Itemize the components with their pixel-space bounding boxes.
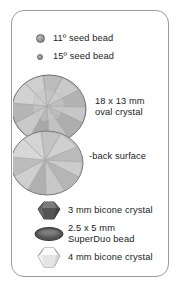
legend-item-label: 3 mm bicone crystal <box>68 205 153 216</box>
legend-item-superduo-bead: 2.5 x 5 mm SuperDuo bead <box>30 222 134 246</box>
legend-item-seed-bead-15: 15º seed bead <box>27 51 114 62</box>
legend-item-label: 11º seed bead <box>53 33 113 44</box>
superduo-lens-bead-icon <box>30 222 68 246</box>
legend-item-label: 18 x 13 mm oval crystal <box>95 96 145 118</box>
legend-item-label: -back surface <box>89 151 146 162</box>
light-bicone-crystal-icon <box>30 246 68 270</box>
tiny-round-bead-icon <box>27 54 53 60</box>
legend-item-label: 2.5 x 5 mm SuperDuo bead <box>68 223 134 245</box>
faceted-oval-crystal-back-icon <box>13 129 89 197</box>
small-round-bead-icon <box>27 34 53 43</box>
legend-item-label: 4 mm bicone crystal <box>68 252 153 263</box>
legend-panel: 11º seed bead 15º seed bead <box>11 10 169 277</box>
legend-item-seed-bead-11: 11º seed bead <box>27 33 113 44</box>
legend-item-label: 15º seed bead <box>53 51 114 62</box>
legend-item-bicone-crystal-4mm: 4 mm bicone crystal <box>30 246 153 270</box>
legend-item-bicone-crystal-3mm: 3 mm bicone crystal <box>30 199 153 223</box>
dark-bicone-crystal-icon <box>30 199 68 223</box>
